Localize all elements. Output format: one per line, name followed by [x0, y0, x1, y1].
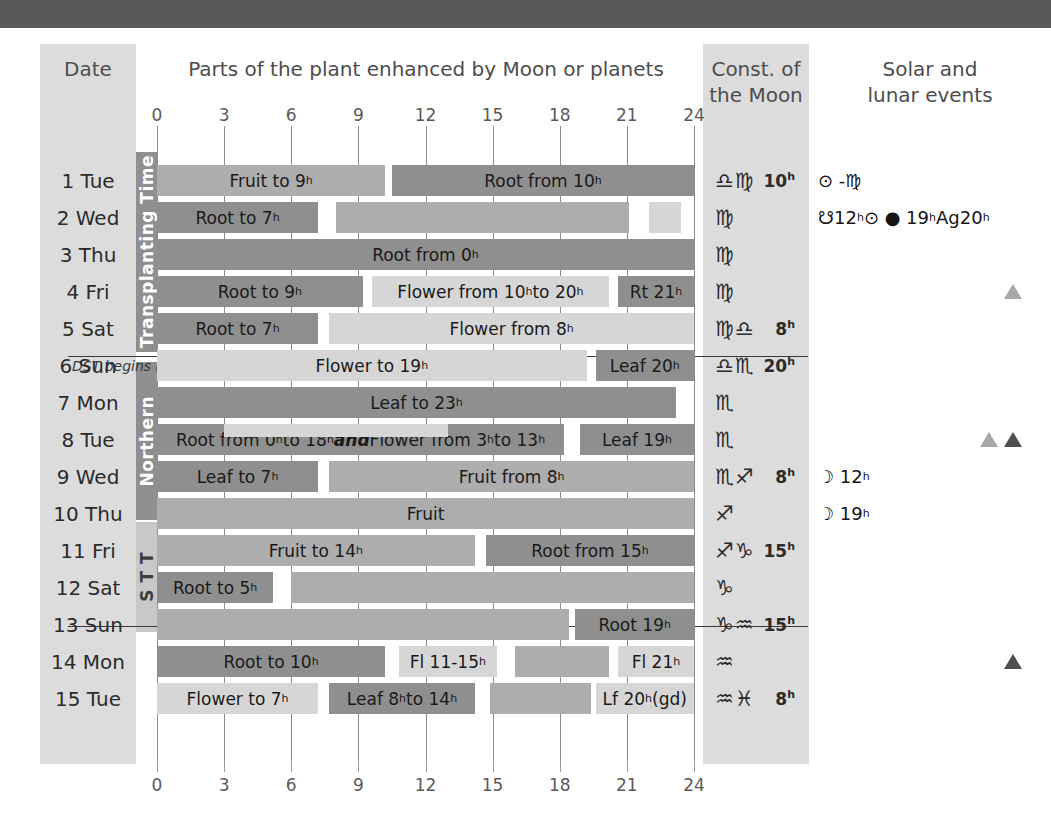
zodiac-sign-icon: ♏: [715, 428, 735, 452]
zodiac-sign-icon: ♍♎: [715, 317, 755, 341]
constellation-cell: ♐♑15h: [703, 532, 809, 569]
date-cell: 2 Wed: [40, 199, 136, 236]
activity-bar: Root to 5h: [157, 572, 273, 603]
tick-bottom-18: [560, 760, 561, 772]
chart-row: Root to 7hFlower from 8h: [157, 310, 694, 347]
constellation-cell: ♑: [703, 569, 809, 606]
date-cell: 3 Thu: [40, 236, 136, 273]
chart-row: Fruit: [157, 495, 694, 532]
activity-bar: Leaf 19h: [580, 424, 694, 455]
band-transplanting-time-label: Transplanting Time: [137, 155, 157, 348]
tick-top-12: [426, 126, 427, 140]
constellation-cell: ♑♒15h: [703, 606, 809, 643]
planet-marker-light-icon: [980, 432, 998, 447]
chart-row: Leaf to 7hFruit from 8h: [157, 458, 694, 495]
constellation-cell: ♍♎8h: [703, 310, 809, 347]
axis-label-bottom-21: 21: [607, 775, 647, 795]
chart-row: Root to 7h: [157, 199, 694, 236]
activity-bar: Root from 0h: [157, 239, 694, 270]
constellation-cell: ♎♍10h: [703, 162, 809, 199]
axis-label-top-6: 6: [271, 105, 311, 125]
tick-bottom-9: [358, 760, 359, 772]
date-cell: 11 Fri: [40, 532, 136, 569]
constellation-cell: ♍: [703, 199, 809, 236]
zodiac-sign-icon: ♍: [715, 243, 735, 267]
constellation-cell: ♒♓8h: [703, 680, 809, 717]
gridline-24: [694, 140, 695, 760]
chart-plot-area: Fruit to 9hRoot from 10hRoot to 7hRoot f…: [157, 140, 694, 760]
activity-bar-overlay: [224, 424, 448, 437]
activity-bar: Root to 7h: [157, 202, 318, 233]
axis-label-top-24: 24: [674, 105, 714, 125]
activity-bar: Root 19h: [575, 609, 694, 640]
axis-label-bottom-9: 9: [338, 775, 378, 795]
date-cell: 1 Tue: [40, 162, 136, 199]
solar-lunar-event: ☋12h ⊙ ● 19h Ag20h: [818, 199, 1046, 236]
header-solar-line2: lunar events: [815, 82, 1045, 108]
activity-bar: [157, 609, 569, 640]
activity-bar: Flower to 7h: [157, 683, 318, 714]
activity-bar: Root to 9h: [157, 276, 363, 307]
axis-label-top-18: 18: [540, 105, 580, 125]
date-cell: 8 Tue: [40, 421, 136, 458]
tick-top-9: [358, 126, 359, 140]
tick-bottom-15: [493, 760, 494, 772]
axis-label-bottom-6: 6: [271, 775, 311, 795]
activity-bar: [649, 202, 680, 233]
zodiac-sign-icon: ♐: [715, 502, 735, 526]
activity-bar: [515, 646, 609, 677]
header-solar-line1: Solar and: [815, 56, 1045, 82]
tick-bottom-12: [426, 760, 427, 772]
date-cell: 10 Thu: [40, 495, 136, 532]
chart-row: Root to 5h: [157, 569, 694, 606]
activity-bar: Rt 21h: [618, 276, 694, 307]
top-dark-band: [0, 0, 1051, 28]
header-constellation: Const. of the Moon: [703, 56, 809, 108]
activity-bar: Root to 10h: [157, 646, 385, 677]
zodiac-sign-icon: ♎♏: [715, 354, 755, 378]
zodiac-sign-icon: ♒♓: [715, 687, 755, 711]
tick-top-24: [694, 126, 695, 140]
date-cell: 5 Sat: [40, 310, 136, 347]
activity-bar: Fruit from 8h: [329, 461, 694, 492]
constellation-cell: ♏♐8h: [703, 458, 809, 495]
chart-row: Root to 10hFl 11-15hFl 21h: [157, 643, 694, 680]
activity-bar: Root to 7h: [157, 313, 318, 344]
axis-label-bottom-3: 3: [204, 775, 244, 795]
activity-bar: Lf 20h (gd): [596, 683, 694, 714]
activity-bar: Flower from 8h: [329, 313, 694, 344]
date-cell: 14 Mon: [40, 643, 136, 680]
date-cell: 6 Sun: [40, 347, 136, 384]
chart-row: Flower to 19hLeaf 20h: [157, 347, 694, 384]
zodiac-sign-icon: ♑♒: [715, 613, 755, 637]
chart-row: Root from 0h to 18h and Flower from 3h t…: [157, 421, 694, 458]
zodiac-sign-icon: ♍: [715, 206, 735, 230]
date-cell: 7 Mon: [40, 384, 136, 421]
axis-label-top-15: 15: [473, 105, 513, 125]
planet-marker-light-icon: [1004, 284, 1022, 299]
constellation-hour: 15h: [763, 540, 809, 561]
solar-lunar-event: ⊙ -♍: [818, 162, 1046, 199]
planet-marker-dark-icon: [1004, 432, 1022, 447]
tick-top-3: [224, 126, 225, 140]
activity-bar: Fl 11-15h: [399, 646, 497, 677]
tick-top-21: [627, 126, 628, 140]
date-cell: 12 Sat: [40, 569, 136, 606]
activity-bar: Root from 15h: [486, 535, 694, 566]
axis-label-bottom-12: 12: [406, 775, 446, 795]
band-northern-label: Northern: [137, 396, 157, 487]
band-transplanting-time: Transplanting Time: [136, 152, 158, 352]
activity-bar: Leaf 8h to 14h: [329, 683, 474, 714]
chart-row: Flower to 7hLeaf 8h to 14hLf 20h (gd): [157, 680, 694, 717]
zodiac-sign-icon: ♏: [715, 391, 735, 415]
date-cell: 13 Sun: [40, 606, 136, 643]
band-stt: S T T: [136, 522, 158, 632]
zodiac-sign-icon: ♑: [715, 576, 735, 600]
axis-label-bottom-15: 15: [473, 775, 513, 795]
tick-bottom-3: [224, 760, 225, 772]
activity-bar: Fruit to 14h: [157, 535, 475, 566]
constellation-hour: 8h: [775, 466, 809, 487]
solar-lunar-event: ☽ 12h: [818, 458, 1046, 495]
band-northern: Northern: [136, 362, 158, 520]
axis-label-bottom-0: 0: [137, 775, 177, 795]
